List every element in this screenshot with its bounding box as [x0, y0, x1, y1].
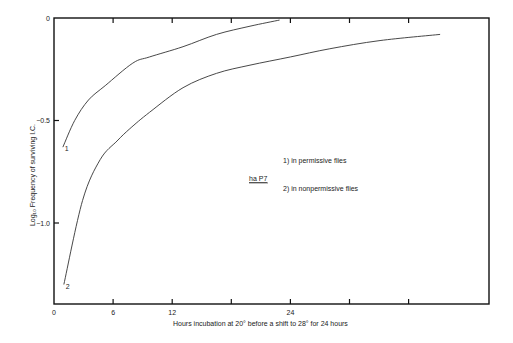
x-axis-title: Hours incubation at 20° before a shift t…	[173, 320, 348, 327]
data-curves	[63, 20, 440, 284]
survival-chart: 0612240−0.5−1.0 12 Log₁₀ Frequency of su…	[0, 0, 513, 343]
y-axis-title: Log₁₀ Frequency of surviving I.C.	[29, 124, 37, 226]
axis-ticks: 0612240−0.5−1.0	[36, 15, 408, 317]
curve-label-2: 2	[66, 283, 70, 290]
x-tick-label: 24	[287, 309, 295, 316]
legend-entry-1: 1) in permissive flies	[283, 157, 347, 165]
x-tick-label: 0	[52, 309, 56, 316]
curve-label-1: 1	[65, 145, 69, 152]
x-tick-label: 12	[168, 309, 176, 316]
curve-1	[63, 20, 280, 147]
y-tick-label: 0	[46, 15, 50, 22]
legend-entry-2: 2) in nonpermissive flies	[283, 185, 359, 193]
y-tick-label: −1.0	[36, 220, 50, 227]
legend-strain-label: ha P7	[249, 175, 267, 182]
curve-2	[64, 34, 440, 284]
y-tick-label: −0.5	[36, 117, 50, 124]
x-tick-label: 6	[111, 309, 115, 316]
